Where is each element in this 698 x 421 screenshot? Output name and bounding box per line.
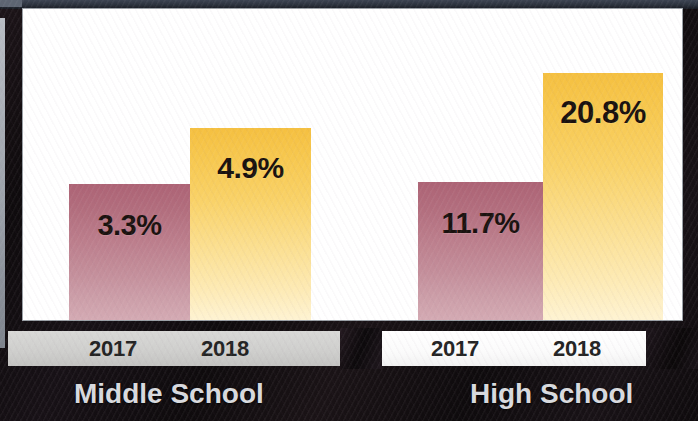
bar-middle-school-2018: 4.9% [190, 128, 311, 320]
bar-high-school-2017: 11.7% [418, 182, 543, 320]
presentation-slide: 3.3% 4.9% 11.7% 20.8% 2017 2018 2017 201… [0, 0, 698, 421]
chart-plot-area: 3.3% 4.9% 11.7% 20.8% [22, 8, 683, 321]
year-label-middle-school-2017: 2017 [68, 336, 158, 362]
slide-top-left-sliver [0, 0, 22, 7]
year-strip-divider [340, 328, 382, 369]
year-label-high-school-2017: 2017 [410, 336, 500, 362]
slide-left-rail [0, 18, 5, 348]
year-label-high-school-2018: 2018 [532, 336, 622, 362]
chart-plot-inner: 3.3% 4.9% 11.7% 20.8% [23, 9, 682, 320]
bar-value-middle-school-2018: 4.9% [190, 153, 311, 183]
bar-value-high-school-2018: 20.8% [543, 97, 663, 128]
bar-middle-school-2017: 3.3% [69, 184, 190, 320]
bar-high-school-2018: 20.8% [543, 73, 663, 320]
bar-value-high-school-2017: 11.7% [418, 209, 543, 238]
year-axis-strip-high-school: 2017 2018 [382, 331, 646, 366]
year-label-middle-school-2018: 2018 [180, 336, 270, 362]
bar-value-middle-school-2017: 3.3% [69, 211, 190, 240]
year-axis-strip-middle-school: 2017 2018 [8, 331, 340, 366]
group-label-middle-school: Middle School [74, 378, 264, 410]
slide-bottom-right-block [646, 328, 698, 369]
group-label-high-school: High School [470, 378, 633, 410]
